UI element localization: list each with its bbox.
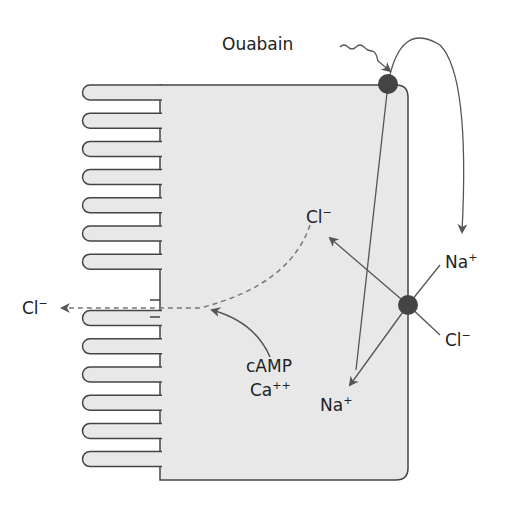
label-cl-intracellular: Cl− xyxy=(306,207,332,226)
label-ca: Ca++ xyxy=(250,380,291,399)
ouabain-squiggle xyxy=(340,45,390,71)
microvillus xyxy=(83,198,162,213)
microvillus xyxy=(83,113,162,128)
microvillus xyxy=(83,226,162,241)
microvillus xyxy=(83,367,162,382)
label-na-extracellular: Na+ xyxy=(445,252,477,271)
microvillus xyxy=(83,85,162,100)
nkcc-cotransporter xyxy=(398,295,418,315)
diagram-graphics xyxy=(0,0,516,507)
cell-diagram: Ouabain Cl− Cl− Na+ Cl− Na+ cAMP Ca++ xyxy=(0,0,516,507)
label-cl-lumen: Cl− xyxy=(22,298,48,317)
label-ouabain: Ouabain xyxy=(222,36,293,53)
microvillus xyxy=(83,423,162,438)
microvillus xyxy=(83,311,162,326)
microvillus xyxy=(83,452,162,467)
label-cl-extracellular: Cl− xyxy=(445,330,471,349)
na-k-pump xyxy=(378,74,398,94)
microvillus xyxy=(83,170,162,185)
microvillus xyxy=(83,141,162,156)
label-camp: cAMP xyxy=(246,358,292,375)
microvillus xyxy=(82,254,162,269)
microvillus xyxy=(83,339,162,354)
label-na-intracellular: Na+ xyxy=(320,395,352,414)
cell-body xyxy=(160,85,408,480)
microvillus xyxy=(83,395,162,410)
